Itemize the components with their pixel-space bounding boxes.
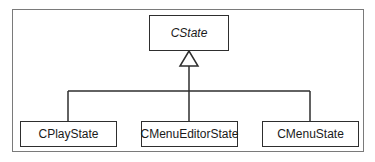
generalization-arrow-icon [180, 51, 198, 66]
class-name: CMenuState [277, 127, 344, 141]
class-box-cstate: CState [149, 15, 229, 51]
class-name: CState [171, 26, 208, 40]
class-name: CPlayState [38, 127, 98, 141]
class-box-cmenustate: CMenuState [262, 121, 359, 147]
class-name: CMenuEditorState [140, 127, 238, 141]
class-box-cmenueditorstate: CMenuEditorState [141, 121, 238, 147]
class-box-cplaystate: CPlayState [20, 121, 117, 147]
